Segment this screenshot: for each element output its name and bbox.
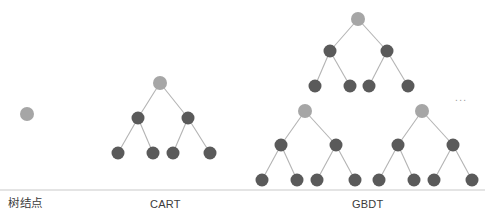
tree-node-circle bbox=[298, 104, 312, 118]
tree-node-circle bbox=[275, 139, 288, 152]
tree-node-circle bbox=[447, 139, 460, 152]
tree-node-circle bbox=[324, 45, 337, 58]
tree-node-circle bbox=[363, 80, 376, 93]
tree-node-circle bbox=[204, 147, 217, 160]
tree-node-circle bbox=[256, 174, 269, 187]
tree-node-circle bbox=[153, 76, 167, 90]
caption-gbdt: GBDT bbox=[352, 199, 383, 210]
diagram-canvas bbox=[0, 0, 485, 222]
tree-node-circle bbox=[132, 112, 145, 125]
tree-node-circle bbox=[392, 139, 405, 152]
tree-node-circle bbox=[381, 45, 394, 58]
tree-node-circle bbox=[373, 174, 386, 187]
tree-node-circle bbox=[344, 80, 357, 93]
tree-node-circle bbox=[112, 147, 125, 160]
tree-node-circle bbox=[408, 174, 421, 187]
ellipsis-more-trees: ... bbox=[455, 93, 468, 103]
tree-node-circle bbox=[349, 174, 362, 187]
tree-node-circle bbox=[351, 12, 365, 26]
tree-nodes-layer bbox=[20, 12, 479, 187]
tree-node-circle bbox=[428, 174, 441, 187]
tree-diagram-figure: 树结点 CART GBDT ... bbox=[0, 0, 485, 222]
tree-node-circle bbox=[147, 147, 160, 160]
tree-node-circle bbox=[402, 80, 415, 93]
tree-node-circle bbox=[167, 147, 180, 160]
caption-cart: CART bbox=[150, 199, 181, 210]
legend-tree-node-circle bbox=[20, 107, 34, 121]
tree-node-circle bbox=[291, 174, 304, 187]
tree-node-circle bbox=[415, 104, 429, 118]
caption-tree-node: 树结点 bbox=[8, 198, 43, 210]
tree-node-circle bbox=[466, 174, 479, 187]
tree-node-circle bbox=[311, 174, 324, 187]
tree-node-circle bbox=[330, 139, 343, 152]
tree-node-circle bbox=[182, 112, 195, 125]
tree-node-circle bbox=[309, 80, 322, 93]
